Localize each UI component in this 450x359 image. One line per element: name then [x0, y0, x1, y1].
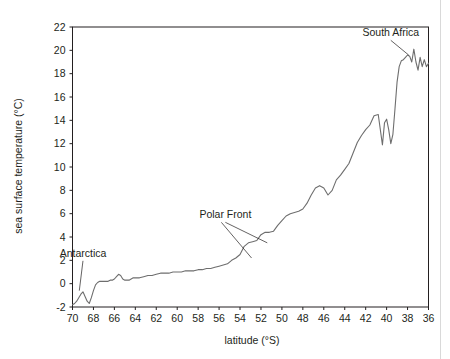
x-tick-label: 54	[234, 312, 246, 324]
x-tick-label: 52	[255, 312, 267, 324]
x-tick-label: 68	[88, 312, 100, 324]
x-tick-label: 36	[423, 312, 435, 324]
annotation-label-south-africa: South Africa	[362, 26, 419, 38]
y-tick-label: 12	[54, 137, 66, 149]
chart-background	[0, 0, 450, 359]
x-tick-label: 50	[276, 312, 288, 324]
annotation-label-antarctica: Antarctica	[60, 247, 107, 259]
y-axis-title: sea surface temperature (°C)	[12, 98, 24, 234]
y-tick-label: -2	[56, 301, 65, 313]
y-tick-label: 6	[60, 207, 66, 219]
x-tick-label: 44	[339, 312, 351, 324]
x-tick-label: 70	[67, 312, 79, 324]
x-tick-label: 46	[318, 312, 330, 324]
x-tick-label: 62	[150, 312, 162, 324]
x-axis-title: latitude (°S)	[225, 334, 280, 346]
y-tick-label: 8	[60, 184, 66, 196]
y-tick-label: 22	[54, 21, 66, 33]
x-tick-label: 56	[213, 312, 225, 324]
x-tick-label: 66	[109, 312, 121, 324]
figure-root: 706866646260585654525048464442403836 -20…	[0, 0, 450, 359]
x-tick-label: 60	[171, 312, 183, 324]
x-tick-label: 64	[129, 312, 141, 324]
y-tick-label: 0	[60, 277, 66, 289]
y-tick-label: 18	[54, 67, 66, 79]
x-tick-label: 40	[381, 312, 393, 324]
y-tick-label: 16	[54, 91, 66, 103]
y-tick-label: 14	[54, 114, 66, 126]
x-tick-label: 42	[360, 312, 372, 324]
y-tick-label: 20	[54, 44, 66, 56]
x-tick-label: 38	[402, 312, 414, 324]
annotation-label-polar-front: Polar Front	[199, 208, 251, 220]
sea-surface-temperature-chart: 706866646260585654525048464442403836 -20…	[0, 0, 450, 359]
x-tick-label: 58	[192, 312, 204, 324]
x-tick-label: 48	[297, 312, 309, 324]
y-tick-label: 4	[60, 231, 66, 243]
y-tick-label: 10	[54, 161, 66, 173]
